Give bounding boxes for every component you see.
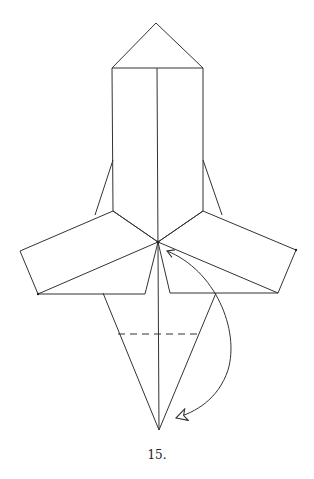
center-crease: [157, 68, 159, 430]
right-arm: [158, 211, 296, 293]
bottom-kite: [103, 293, 216, 430]
right-side-flap: [203, 160, 222, 215]
origami-diagram: [0, 0, 314, 479]
hood-triangle: [112, 23, 203, 68]
step-number: 15.: [0, 448, 314, 462]
left-side-flap: [95, 160, 113, 215]
left-arm: [20, 211, 158, 294]
